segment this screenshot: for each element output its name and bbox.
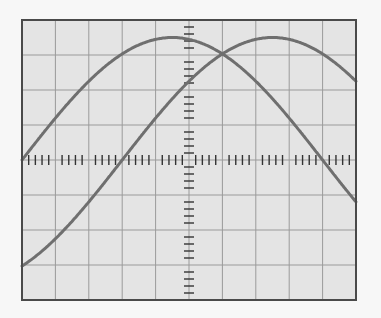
- oscilloscope-display: [0, 0, 381, 318]
